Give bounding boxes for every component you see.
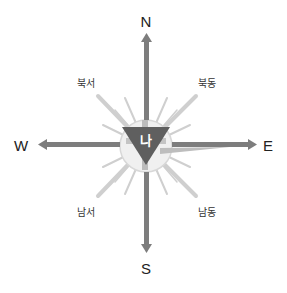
label-southwest: 남서 [77, 204, 95, 219]
label-south: S [141, 260, 151, 277]
label-north: N [141, 13, 152, 30]
label-northeast: 북동 [198, 75, 216, 90]
label-northwest: 북서 [77, 75, 95, 90]
label-southeast: 남동 [198, 204, 216, 219]
label-east: E [263, 137, 273, 154]
label-west: W [14, 137, 28, 154]
center-label: 나 [140, 130, 152, 149]
